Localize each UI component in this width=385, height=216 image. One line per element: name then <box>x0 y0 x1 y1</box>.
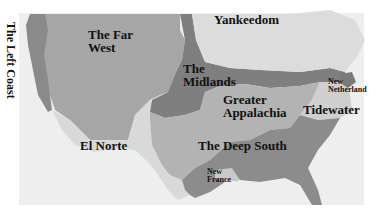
label-greater-appalachia: Greater Appalachia <box>223 93 287 119</box>
label-tidewater: Tidewater <box>303 103 360 116</box>
label-new-france: New France <box>207 168 231 184</box>
label-new-netherland: New Netherland <box>328 78 367 94</box>
label-el-norte: El Norte <box>80 139 127 152</box>
label-left-coast: The Left Coast <box>3 22 18 99</box>
label-far-west: The Far West <box>88 28 133 54</box>
label-yankeedom: Yankeedom <box>214 13 279 26</box>
label-midlands: The Midlands <box>183 62 236 88</box>
label-deep-south: The Deep South <box>198 139 287 152</box>
